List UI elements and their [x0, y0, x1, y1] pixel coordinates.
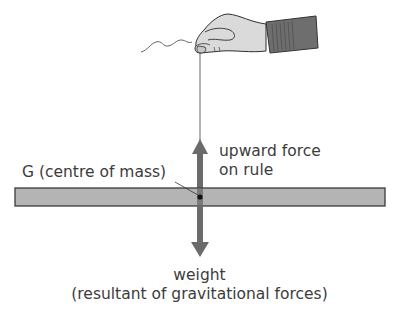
- upward-force-label-line1: upward force: [219, 142, 321, 161]
- weight-label: weight (resultant of gravitational force…: [0, 266, 399, 304]
- upward-arrow-shaft: [197, 152, 203, 190]
- weight-label-line2: (resultant of gravitational forces): [0, 285, 399, 304]
- upward-arrowhead-icon: [192, 139, 208, 154]
- hand-icon: [195, 14, 318, 53]
- downward-arrow-shaft: [197, 206, 203, 244]
- loose-string-end: [141, 40, 192, 52]
- upward-force-label-line2: on rule: [219, 161, 321, 180]
- centre-of-mass-label: G (centre of mass): [22, 163, 166, 182]
- downward-arrowhead-icon: [191, 242, 209, 257]
- weight-label-line1: weight: [0, 266, 399, 285]
- upward-force-label: upward force on rule: [219, 142, 321, 180]
- centre-of-mass-dot: [197, 194, 202, 199]
- diagram-canvas: upward force on rule G (centre of mass) …: [0, 0, 399, 333]
